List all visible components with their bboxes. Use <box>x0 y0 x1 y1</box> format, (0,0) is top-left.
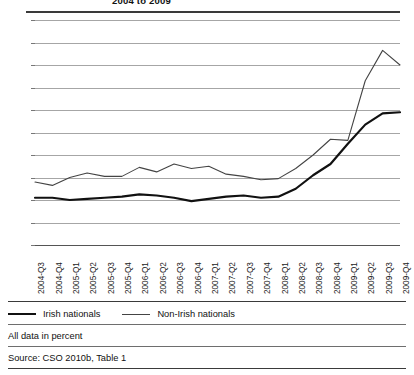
chart-title-clip: 2004 to 2009 <box>0 0 414 9</box>
x-axis-line <box>35 245 400 246</box>
x-tick-label-2007-Q3: 2007-Q3 <box>247 262 255 294</box>
x-tick-label-2004-Q3: 2004-Q3 <box>38 262 46 294</box>
chart-legend: Irish nationalsNon-Irish nationals <box>8 305 406 323</box>
x-tick-label-2008-Q3: 2008-Q3 <box>316 262 324 294</box>
legend-top-rule <box>8 301 406 302</box>
y-tick-mark-12 <box>31 110 35 111</box>
x-tick-label-2006-Q4: 2006-Q4 <box>195 262 203 294</box>
title-divider <box>26 11 400 13</box>
legend-bottom-rule <box>8 324 406 325</box>
y-tick-mark-2 <box>31 223 35 224</box>
y-tick-mark-10 <box>31 133 35 134</box>
legend-label: Irish nationals <box>43 309 100 319</box>
y-tick-mark-20 <box>31 20 35 21</box>
x-tick-label-2005-Q1: 2005-Q1 <box>73 262 81 294</box>
x-tick-label-2009-Q3: 2009-Q3 <box>386 262 394 294</box>
legend-line-icon <box>8 313 36 315</box>
series-lines <box>35 20 400 245</box>
series-line-irish-nationals <box>35 112 400 201</box>
legend-line-icon <box>122 314 150 315</box>
plot-area <box>35 20 400 245</box>
x-tick-label-2005-Q2: 2005-Q2 <box>90 262 98 294</box>
legend-item: Non-Irish nationals <box>122 309 235 319</box>
source-text: Source: CSO 2010b, Table 1 <box>8 353 126 363</box>
y-tick-mark-6 <box>31 178 35 179</box>
note-row: All data in percent <box>8 326 406 346</box>
x-tick-label-2007-Q1: 2007-Q1 <box>212 262 220 294</box>
note-text: All data in percent <box>8 331 82 341</box>
legend-label: Non-Irish nationals <box>157 309 235 319</box>
chart-title: 2004 to 2009 <box>112 0 171 6</box>
x-tick-label-2004-Q4: 2004-Q4 <box>56 262 64 294</box>
x-axis-labels: 2004-Q32004-Q42005-Q12005-Q22005-Q32005-… <box>35 248 400 296</box>
x-tick-label-2009-Q1: 2009-Q1 <box>351 262 359 294</box>
x-tick-label-2006-Q2: 2006-Q2 <box>160 262 168 294</box>
x-tick-label-2009-Q2: 2009-Q2 <box>368 262 376 294</box>
x-tick-label-2007-Q2: 2007-Q2 <box>229 262 237 294</box>
x-tick-label-2008-Q4: 2008-Q4 <box>334 262 342 294</box>
x-tick-label-2005-Q4: 2005-Q4 <box>125 262 133 294</box>
figure-container: 2004 to 2009 02468101214161820 2004-Q320… <box>0 0 414 375</box>
x-tick-label-2008-Q2: 2008-Q2 <box>299 262 307 294</box>
y-tick-mark-4 <box>31 200 35 201</box>
source-row: Source: CSO 2010b, Table 1 <box>8 348 406 368</box>
y-tick-mark-18 <box>31 43 35 44</box>
x-tick-label-2006-Q1: 2006-Q1 <box>142 262 150 294</box>
y-tick-mark-16 <box>31 65 35 66</box>
y-tick-mark-0 <box>31 245 35 246</box>
note-bottom-rule <box>8 346 406 347</box>
x-tick-label-2007-Q4: 2007-Q4 <box>264 262 272 294</box>
x-tick-label-2009-Q4: 2009-Q4 <box>403 262 411 294</box>
series-line-non-irish-nationals <box>35 50 400 185</box>
x-tick-label-2008-Q1: 2008-Q1 <box>282 262 290 294</box>
y-tick-mark-8 <box>31 155 35 156</box>
y-tick-mark-14 <box>31 88 35 89</box>
x-tick-label-2005-Q3: 2005-Q3 <box>108 262 116 294</box>
x-tick-label-2006-Q3: 2006-Q3 <box>177 262 185 294</box>
legend-item: Irish nationals <box>8 309 100 319</box>
figure-bottom-rule <box>8 368 406 369</box>
